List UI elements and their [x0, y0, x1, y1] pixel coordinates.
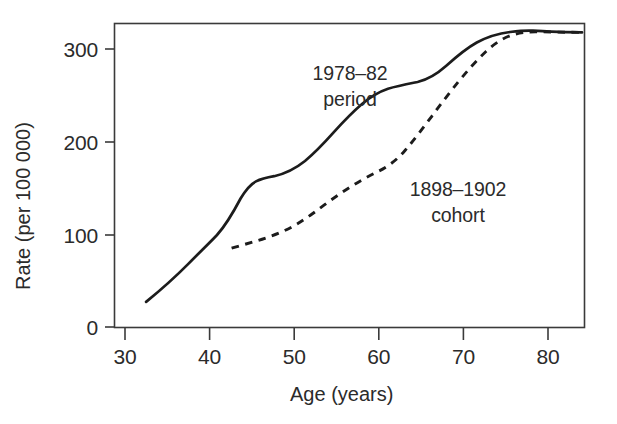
series-annotation-period-line1: 1978–82 [290, 62, 410, 85]
y-tick-label-300: 300 [38, 38, 98, 62]
x-tick-label-60: 60 [354, 345, 404, 369]
series-annotation-cohort-line2: cohort [393, 204, 523, 227]
x-axis-title: Age (years) [290, 383, 393, 406]
series-annotation-cohort-line1: 1898–1902 [393, 178, 523, 201]
x-axis-ticks [125, 328, 548, 341]
x-tick-label-70: 70 [438, 345, 488, 369]
series-annotation-period-line2: period [290, 88, 410, 111]
y-tick-label-200: 200 [38, 131, 98, 155]
y-axis-ticks [105, 49, 115, 327]
y-tick-label-100: 100 [38, 224, 98, 248]
x-tick-label-50: 50 [269, 345, 319, 369]
y-tick-label-0: 0 [38, 316, 98, 340]
y-axis-title: Rate (per 100 000) [12, 122, 35, 290]
x-tick-label-40: 40 [185, 345, 235, 369]
x-tick-label-30: 30 [100, 345, 150, 369]
chart-figure: 300 200 100 0 30 40 50 60 70 80 Age (yea… [0, 0, 617, 424]
x-tick-label-80: 80 [523, 345, 573, 369]
